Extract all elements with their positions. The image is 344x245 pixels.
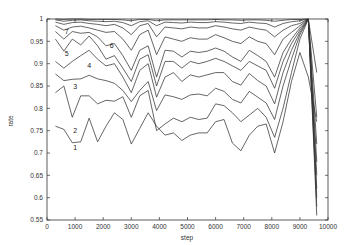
y-tick-label: 0.55	[30, 216, 43, 223]
curve-label-6: 6	[110, 42, 114, 49]
curve-label-4: 4	[87, 62, 91, 69]
y-axis-label: rate	[7, 115, 14, 127]
y-tick-label: 0.65	[30, 172, 43, 179]
curve-label-2: 2	[73, 127, 77, 134]
x-tick-label: 2000	[96, 223, 111, 230]
series-group	[55, 19, 316, 216]
x-tick-label: 0	[45, 223, 49, 230]
x-tick-label: 4000	[152, 223, 167, 230]
y-tick-label: 0.75	[30, 127, 43, 134]
series-line-3	[55, 19, 316, 207]
plot-frame	[47, 19, 328, 220]
x-tick-label: 7000	[236, 223, 251, 230]
x-tick-label: 3000	[124, 223, 139, 230]
x-tick-label: 6000	[208, 223, 223, 230]
series-line-7	[55, 19, 316, 162]
series-line-5	[55, 19, 316, 189]
x-axis-label: step	[181, 234, 194, 242]
y-tick-label: 0.95	[30, 38, 43, 45]
curve-label-3: 3	[73, 83, 77, 90]
y-tick-label: 0.85	[30, 82, 43, 89]
y-tick-label: 0.6	[34, 194, 43, 201]
y-tick-label: 1	[39, 15, 43, 22]
curve-label-5: 5	[65, 50, 69, 57]
curve-label-7: 7	[65, 28, 69, 35]
x-tick-label: 1000	[68, 223, 83, 230]
curve-label-1: 1	[73, 144, 77, 151]
y-tick-label: 0.9	[34, 60, 43, 67]
line-chart: 0100020003000400050006000700080009000100…	[0, 0, 344, 245]
x-tick-label: 10000	[319, 223, 337, 230]
x-tick-label: 8000	[265, 223, 280, 230]
x-tick-label: 9000	[293, 223, 308, 230]
y-tick-label: 0.8	[34, 105, 43, 112]
x-tick-label: 5000	[180, 223, 195, 230]
series-line-8	[55, 19, 316, 144]
curve-labels: 1234567	[65, 28, 114, 151]
y-tick-label: 0.7	[34, 149, 43, 156]
